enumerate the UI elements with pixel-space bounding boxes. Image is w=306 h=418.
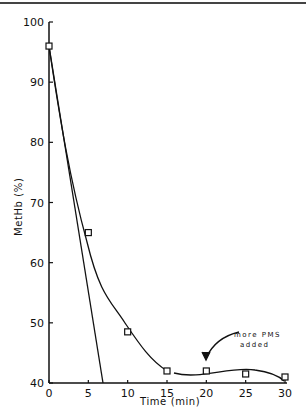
data-point [282, 374, 288, 380]
x-axis-label: Time (min) [139, 396, 200, 407]
x-tick-label: 10 [121, 387, 135, 400]
chart: 405060708090100051015202530 more PMS add… [0, 0, 306, 418]
x-tick-label: 5 [85, 387, 92, 400]
y-tick-label: 90 [30, 76, 44, 89]
x-tick-label: 0 [46, 387, 53, 400]
x-tick-label: 25 [239, 387, 253, 400]
x-tick-label: 30 [278, 387, 292, 400]
annotation-line1: more PMS [234, 331, 281, 339]
data-point [243, 371, 249, 377]
data-point [203, 368, 209, 374]
x-tick-label: 20 [199, 387, 213, 400]
y-tick-label: 100 [23, 16, 44, 29]
data-point [125, 329, 131, 335]
y-axis-label: MetHb (%) [13, 178, 24, 236]
data-point [164, 368, 170, 374]
y-tick-label: 80 [30, 136, 44, 149]
y-tick-label: 50 [30, 317, 44, 330]
data-point [85, 230, 91, 236]
data-point [46, 43, 52, 49]
y-tick-label: 40 [30, 377, 44, 390]
y-tick-label: 60 [30, 257, 44, 270]
initial-rate-line [49, 46, 103, 383]
y-tick-label: 70 [30, 197, 44, 210]
annotation-line2: added [240, 341, 269, 349]
